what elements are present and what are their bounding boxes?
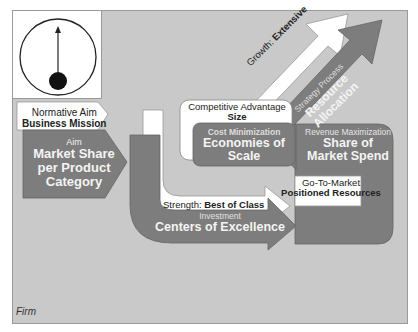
aim-line2: per Product <box>26 161 122 175</box>
investment-value: Centers of Excellence <box>150 221 290 234</box>
strength-label: Strength: <box>163 199 202 210</box>
investment: Investment Centers of Excellence <box>150 212 290 234</box>
go-to-market: Go-To-Market Positioned Resources <box>276 178 386 198</box>
strength-value: Best of Class <box>204 199 264 210</box>
go-to-market-value: Positioned Resources <box>276 188 386 198</box>
gauge-panel <box>12 10 102 99</box>
aim-line1: Market Share <box>26 147 122 161</box>
cost-minimization: Cost Minimization Economies of Scale <box>193 128 295 163</box>
cost-minimization-line2: Scale <box>193 150 295 163</box>
normative-aim-label: Normative Aim <box>22 108 106 119</box>
gauge-needle-icon <box>13 11 103 100</box>
competitive-advantage: Competitive Advantage Size <box>182 102 292 122</box>
aim: Aim Market Share per Product Category <box>26 138 122 188</box>
revenue-line2: Market Spend <box>294 150 402 163</box>
aim-line3: Category <box>26 175 122 189</box>
normative-aim-value: Business Mission <box>22 119 106 130</box>
firm-label: Firm <box>16 306 36 317</box>
strength: Strength: Best of Class <box>163 200 264 210</box>
revenue-maximization: Revenue Maximization Share of Market Spe… <box>294 128 402 163</box>
competitive-advantage-value: Size <box>182 112 292 122</box>
normative-aim: Normative Aim Business Mission <box>22 108 106 129</box>
